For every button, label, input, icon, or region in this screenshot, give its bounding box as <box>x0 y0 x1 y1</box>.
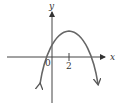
parabola-graph: y x 0 2 <box>0 0 119 106</box>
parabola-curve <box>40 28 69 83</box>
x-tick-label-2: 2 <box>66 61 72 71</box>
x-axis-label: x <box>110 52 115 62</box>
origin-label: 0 <box>45 58 51 68</box>
y-axis-label: y <box>48 1 55 11</box>
